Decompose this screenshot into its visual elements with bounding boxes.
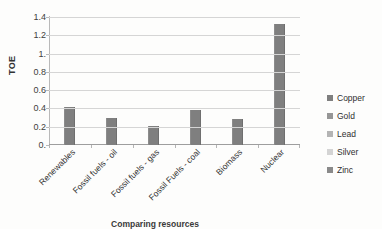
chart-legend: CopperGoldLeadSilverZinc <box>327 90 382 180</box>
gridline <box>49 35 300 36</box>
gridline <box>49 127 300 128</box>
legend-label: Lead <box>337 129 356 139</box>
y-axis-tick-label: 1.2 <box>18 31 46 40</box>
legend-label: Silver <box>337 147 358 157</box>
legend-item[interactable]: Copper <box>327 90 382 106</box>
y-axis-tickmark <box>46 90 49 91</box>
gridline <box>49 17 300 18</box>
legend-swatch-icon <box>327 113 333 119</box>
y-axis-tick-label: 0.8 <box>18 67 46 76</box>
x-axis-tick-labels: RenewablesFossil fuels - oilFossil fuels… <box>49 147 309 209</box>
legend-swatch-icon <box>327 149 333 155</box>
y-axis-tick-label: 0. <box>18 141 46 150</box>
x-axis-title: Comparing resources <box>0 219 310 229</box>
y-axis-tick-label: 1.4 <box>18 13 46 22</box>
legend-swatch-icon <box>327 167 333 173</box>
y-axis-tickmark <box>46 35 49 36</box>
x-axis-tick-label: Renewables <box>0 147 77 229</box>
legend-label: Zinc <box>337 165 353 175</box>
plot-area <box>49 17 300 145</box>
legend-swatch-icon <box>327 95 333 101</box>
y-axis-tickmark <box>46 54 49 55</box>
y-axis-tickmark <box>46 17 49 18</box>
bar <box>148 126 159 145</box>
gridline <box>49 90 300 91</box>
legend-item[interactable]: Silver <box>327 144 382 160</box>
y-axis-tick-label: 0.4 <box>18 104 46 113</box>
legend-label: Copper <box>337 93 365 103</box>
gridline <box>49 72 300 73</box>
y-axis-tick-labels: 0.0.20.40.60.81.1.21.4 <box>18 11 46 145</box>
legend-item[interactable]: Zinc <box>327 162 382 178</box>
y-axis-tickmark <box>46 127 49 128</box>
bar <box>232 119 243 146</box>
y-axis-title: TOE <box>7 59 17 75</box>
y-axis-tick-label: 0.6 <box>18 86 46 95</box>
y-axis-tick-label: 1. <box>18 49 46 58</box>
y-axis-tickmark <box>46 72 49 73</box>
legend-swatch-icon <box>327 131 333 137</box>
y-axis-tickmark <box>46 108 49 109</box>
legend-item[interactable]: Lead <box>327 126 382 142</box>
y-axis-tick-label: 0.2 <box>18 122 46 131</box>
gridline <box>49 54 300 55</box>
bar <box>106 118 117 145</box>
bar-chart: TOE 0.0.20.40.60.81.1.21.4 RenewablesFos… <box>0 0 382 229</box>
legend-item[interactable]: Gold <box>327 108 382 124</box>
gridline <box>49 108 300 109</box>
legend-label: Gold <box>337 111 355 121</box>
